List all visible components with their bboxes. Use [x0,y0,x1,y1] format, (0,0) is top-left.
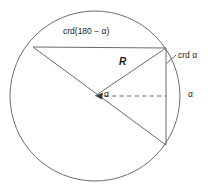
diagram-canvas [0,0,219,192]
arc-angle-label: α [188,90,193,99]
radius-label: R [119,57,126,67]
top-chord-label: crd(180 − α) [63,27,109,36]
crd-alpha-leader-line [167,55,177,64]
top-chord-line [33,47,166,48]
geometry-diagram: crd(180 − α) crd α R α α [0,0,219,192]
center-angle-label: α [104,90,109,99]
right-chord-label: crd α [178,51,197,60]
